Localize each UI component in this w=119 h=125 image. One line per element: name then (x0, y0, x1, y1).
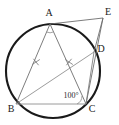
geometry-figure: A B C D E 100° (0, 0, 119, 125)
vertex-label-c: C (89, 103, 96, 114)
geometry-canvas: A B C D E 100° (0, 0, 119, 125)
segment-ae (50, 18, 103, 24)
tick-mark-ab (32, 59, 40, 65)
angle-arc-a (47, 32, 54, 33)
tick-mark-ac (65, 59, 73, 65)
vertex-label-d: D (97, 43, 104, 54)
vertex-label-b: B (8, 103, 15, 114)
vertex-label-a: A (45, 7, 53, 18)
vertex-label-e: E (105, 6, 111, 17)
angle-label-100-degrees: 100° (63, 91, 78, 100)
